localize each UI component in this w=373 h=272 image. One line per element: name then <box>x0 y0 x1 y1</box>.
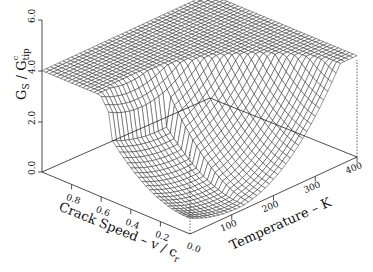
z-title-g: G <box>14 90 29 100</box>
z-tick-label-6: 6.0 <box>27 8 37 23</box>
y-tick-label-200: 200 <box>261 199 281 215</box>
y-tick-label-100: 100 <box>219 218 239 234</box>
surface-plot: 0.20.40.60.8 100200300400 6.0 4.0 2.0 0.… <box>0 0 373 272</box>
x-tick-label-origin: 0.0 <box>185 240 202 254</box>
z-title-sup2: c <box>11 55 20 60</box>
z-tick-label-2: 2.0 <box>27 110 37 125</box>
surface-plot-canvas: 0.20.40.60.8 100200300400 6.0 4.0 2.0 0.… <box>0 0 373 272</box>
z-title-slash: / <box>14 71 29 84</box>
z-axis-title: GS / Gtipc <box>11 48 31 100</box>
z-title-sub2: tip <box>21 48 31 60</box>
z-title-g2: G <box>14 60 29 70</box>
y-tick-label-400: 400 <box>344 160 364 176</box>
svg-text:GS / Gtipc: GS / Gtipc <box>11 48 31 100</box>
z-tick-label-0: 0.0 <box>27 160 37 175</box>
x-title-text: Crack Speed – v / c <box>57 199 180 260</box>
y-tick-label-300: 300 <box>302 179 322 195</box>
